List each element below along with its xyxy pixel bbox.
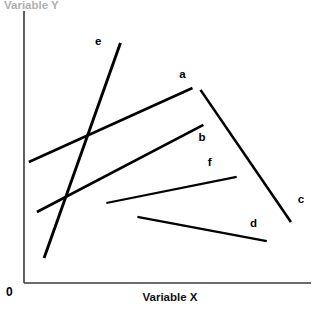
series-label-a: a: [179, 69, 185, 81]
x-axis-title: Variable X: [143, 291, 198, 303]
series-label-e: e: [95, 36, 101, 48]
series-line-c: [201, 90, 291, 222]
series-label-d: d: [250, 218, 257, 230]
series-line-d: [137, 217, 266, 241]
series-label-f: f: [208, 157, 212, 169]
plot-area: [0, 0, 318, 316]
axes-group: [24, 11, 311, 283]
series-line-f: [106, 177, 236, 203]
origin-label: 0: [6, 285, 13, 299]
series-label-b: b: [198, 132, 205, 144]
chart-figure: Variable Y abcdef Variable X 0: [0, 0, 318, 316]
series-line-a: [29, 88, 193, 162]
series-label-c: c: [298, 194, 304, 206]
series-line-b: [37, 125, 203, 212]
